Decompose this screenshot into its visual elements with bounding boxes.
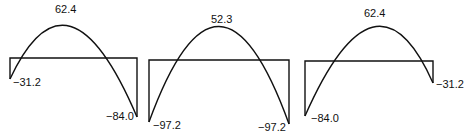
span-3-right-label: −31.2 xyxy=(436,78,464,90)
span-1-peak-label: 62.4 xyxy=(55,3,76,15)
span-3-peak-label: 62.4 xyxy=(364,7,385,19)
span-1-diagram: 62.4 −31.2 −84.0 xyxy=(10,3,137,122)
span-2-diagram: 52.3 −97.2 −97.2 xyxy=(149,13,289,133)
span-2-right-label: −97.2 xyxy=(258,121,286,133)
span-1-right-label: −84.0 xyxy=(106,110,134,122)
span-1-left-label: −31.2 xyxy=(13,76,41,88)
moment-diagram: 62.4 −31.2 −84.0 52.3 −97.2 −97.2 62.4 −… xyxy=(0,0,474,138)
span-3-baseline xyxy=(305,61,433,116)
span-2-moment-curve xyxy=(149,26,289,124)
span-3-moment-curve xyxy=(305,26,433,116)
span-2-baseline xyxy=(149,60,289,124)
span-2-left-label: −97.2 xyxy=(153,119,181,131)
span-3-left-label: −84.0 xyxy=(311,112,339,124)
span-1-moment-curve xyxy=(10,25,137,117)
span-2-peak-label: 52.3 xyxy=(211,13,232,25)
span-3-diagram: 62.4 −84.0 −31.2 xyxy=(305,7,464,124)
